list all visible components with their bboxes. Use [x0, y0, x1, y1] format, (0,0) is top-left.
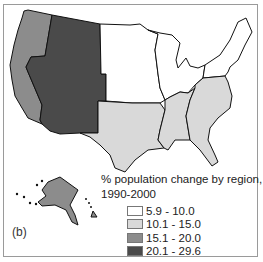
legend-label: 15.1 - 20.0: [146, 232, 201, 244]
legend-swatch: [127, 206, 143, 216]
panel-label: (b): [12, 225, 27, 239]
legend-label: 10.1 - 15.0: [146, 218, 201, 230]
region-alaska: [38, 177, 78, 225]
legend-item: 20.1 - 29.6: [127, 245, 201, 259]
legend-swatch: [127, 233, 143, 243]
legend: 5.9 - 10.0 10.1 - 15.0 15.1 - 20.0 20.1 …: [127, 204, 201, 258]
legend-title: % population change by region, 1990-2000: [101, 172, 262, 202]
legend-item: 5.9 - 10.0: [127, 204, 201, 218]
legend-title-line2: 1990-2000: [101, 187, 262, 202]
legend-label: 5.9 - 10.0: [146, 205, 195, 217]
legend-item: 10.1 - 15.0: [127, 218, 201, 232]
region-west-north-central: [100, 24, 165, 103]
legend-swatch: [127, 219, 143, 229]
legend-title-line1: % population change by region,: [101, 172, 262, 187]
legend-swatch: [127, 246, 143, 256]
legend-item: 15.1 - 20.0: [127, 231, 201, 245]
region-northeast: [203, 18, 252, 78]
legend-label: 20.1 - 29.6: [146, 245, 201, 257]
region-hawaii: [91, 211, 97, 217]
